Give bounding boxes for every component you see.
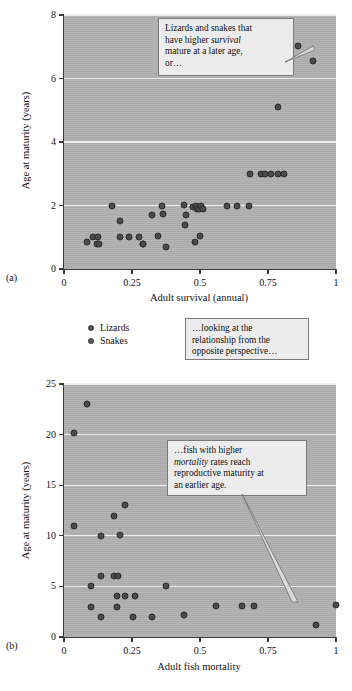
data-point (312, 621, 319, 628)
y-tick-label: 0 (51, 264, 56, 274)
data-point (158, 202, 165, 209)
y-tick (59, 586, 64, 587)
legend: Lizards Snakes (88, 321, 129, 347)
data-point (108, 202, 115, 209)
x-tick (335, 269, 336, 274)
callout-bottom-line1: …fish with higher (174, 445, 301, 457)
x-tick (267, 637, 268, 642)
x-tick (131, 637, 132, 642)
callout-top-line3: mature at a later age, (165, 46, 288, 58)
axis-title-y-b: Age at maturity (years) (20, 446, 31, 576)
axis-title-x-b: Adult fish mortality (157, 661, 240, 672)
gridline (64, 141, 336, 142)
data-point (88, 603, 95, 610)
y-tick-label: 4 (51, 137, 56, 147)
panel-a: 0246800.250.50.751 (a) Adult survival (a… (0, 0, 352, 310)
data-point (149, 212, 156, 219)
axis-title-x-a: Adult survival (annual) (150, 292, 248, 303)
data-point (251, 602, 258, 609)
legend-dot-icon (88, 325, 94, 331)
callout-bottom: …fish with higher mortality rates reach … (167, 440, 307, 496)
data-point (114, 603, 121, 610)
data-point (97, 573, 104, 580)
y-tick (59, 434, 64, 435)
data-point (96, 241, 103, 248)
callout-middle-line2: relationship from the (192, 335, 303, 347)
gridline (64, 535, 336, 536)
data-point (95, 234, 102, 241)
x-tick (335, 637, 336, 642)
data-point (274, 104, 281, 111)
x-tick-label: 0.5 (194, 278, 207, 288)
y-tick-label: 8 (51, 10, 56, 20)
figure-root: 0246800.250.50.751 (a) Adult survival (a… (0, 0, 352, 691)
x-tick (131, 269, 132, 274)
callout-middle-line1: …looking at the (192, 323, 303, 335)
data-point (199, 206, 206, 213)
y-tick (59, 383, 64, 384)
x-tick-label: 1 (334, 278, 339, 288)
x-tick-label: 0 (62, 646, 67, 656)
data-point (97, 613, 104, 620)
data-point (122, 502, 129, 509)
x-tick (199, 637, 200, 642)
data-point (130, 613, 137, 620)
data-point (183, 212, 190, 219)
data-point (126, 234, 133, 241)
data-point (70, 430, 77, 437)
gridline (64, 434, 336, 435)
data-point (84, 401, 91, 408)
data-point (115, 573, 122, 580)
callout-top-line2: have higher survival (165, 35, 288, 47)
data-point (116, 531, 123, 538)
callout-top-line4: or… (165, 58, 288, 70)
data-point (245, 202, 252, 209)
callout-top-line2-pre: have higher (165, 35, 211, 45)
y-tick-label: 2 (51, 201, 56, 211)
y-tick (59, 205, 64, 206)
data-point (233, 202, 240, 209)
data-point (239, 602, 246, 609)
gridline (64, 586, 336, 587)
data-point (111, 512, 118, 519)
y-tick-label: 6 (51, 74, 56, 84)
callout-top-line1: Lizards and snakes that (165, 23, 288, 35)
data-point (281, 170, 288, 177)
callout-top-line2-emph: survival (211, 35, 241, 45)
data-point (163, 583, 170, 590)
data-point (333, 602, 340, 609)
y-tick (59, 14, 64, 15)
data-point (160, 211, 167, 218)
data-point (154, 232, 161, 239)
data-point (163, 244, 170, 251)
legend-item-lizards: Lizards (88, 321, 129, 334)
y-tick-label: 15 (46, 480, 56, 490)
y-tick-label: 20 (46, 430, 56, 440)
plot-b-right-edge (335, 384, 337, 637)
x-tick-label: 0.5 (194, 646, 207, 656)
data-point (191, 239, 198, 246)
callout-bottom-line2-emph: mortality (174, 457, 208, 467)
data-point (116, 234, 123, 241)
data-point (180, 611, 187, 618)
plot-area-b: 051015202500.250.50.751 (63, 384, 336, 638)
data-point (131, 592, 138, 599)
gridline (64, 14, 336, 15)
data-point (180, 201, 187, 208)
data-point (116, 218, 123, 225)
legend-dot-icon (88, 338, 94, 344)
panel-b-letter: (b) (6, 640, 18, 651)
y-tick (59, 535, 64, 536)
data-point (224, 202, 231, 209)
callout-middle-line3: opposite perspective… (192, 346, 303, 358)
data-point (213, 602, 220, 609)
data-point (149, 613, 156, 620)
x-tick-label: 0 (62, 278, 67, 288)
callout-bottom-line3: reproductive maturity at (174, 468, 301, 480)
data-point (139, 241, 146, 248)
data-point (122, 592, 129, 599)
legend-label-lizards: Lizards (100, 322, 129, 333)
gridline (64, 78, 336, 79)
y-tick-label: 25 (46, 379, 56, 389)
y-tick-label: 10 (46, 531, 56, 541)
